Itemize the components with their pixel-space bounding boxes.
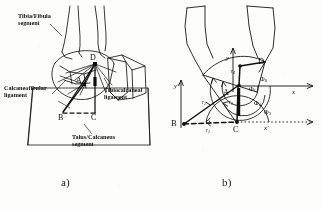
angle-label-phi-0: Φ0 — [260, 75, 267, 83]
point-label-b-panel-a: B — [58, 113, 63, 122]
angle-label-phi-3: Φ3 — [264, 108, 271, 116]
axis-label-y-prime: y' — [174, 82, 179, 90]
radius-label-r4: r4 — [231, 68, 235, 75]
point-label-c-panel-b: C — [233, 124, 239, 134]
panel-b-kinematic-diagram: D A B C y x y' x' r1 r2 r3 r4 Φ0 Φ1 Φ4 Φ… — [161, 0, 322, 211]
angle-label-phi-4: Φ4 — [254, 99, 261, 107]
point-label-d-panel-b: D — [258, 56, 264, 66]
caption-b: b) — [222, 176, 232, 188]
panel-a-drawing — [0, 0, 161, 211]
figure-root: Tibia/Fibula segment Calcaneofibular lig… — [0, 0, 322, 211]
label-talus-calcaneus-segment: Talus/Calcaneus segment — [72, 133, 115, 148]
axis-label-x-prime: x' — [264, 124, 269, 132]
point-label-c-panel-a: C — [91, 113, 96, 122]
angle-label-phi-1: Φ1 — [249, 85, 256, 93]
panel-b-drawing — [161, 0, 322, 211]
point-label-a-panel-b: A — [223, 87, 229, 97]
radius-label-r1: r1 — [206, 127, 210, 134]
radius-label-r3: r3 — [229, 99, 233, 106]
label-tibiocalcaneal-ligament: Tibiocalcaneal ligament — [104, 86, 142, 101]
axis-label-x: x — [292, 88, 295, 96]
point-label-b-panel-b: B — [171, 118, 177, 128]
axis-label-y: y — [226, 54, 229, 62]
radius-label-r2: r2 — [202, 99, 206, 106]
label-tibia-fibula-segment: Tibia/Fibula segment — [18, 12, 51, 27]
panel-a-anatomical-diagram: Tibia/Fibula segment Calcaneofibular lig… — [0, 0, 161, 211]
point-label-d-panel-a: D — [90, 53, 96, 62]
point-label-a-panel-a: A — [76, 76, 82, 85]
label-calcaneofibular-ligament: Calcaneofibular ligament — [4, 84, 47, 99]
caption-a: a) — [61, 176, 70, 188]
